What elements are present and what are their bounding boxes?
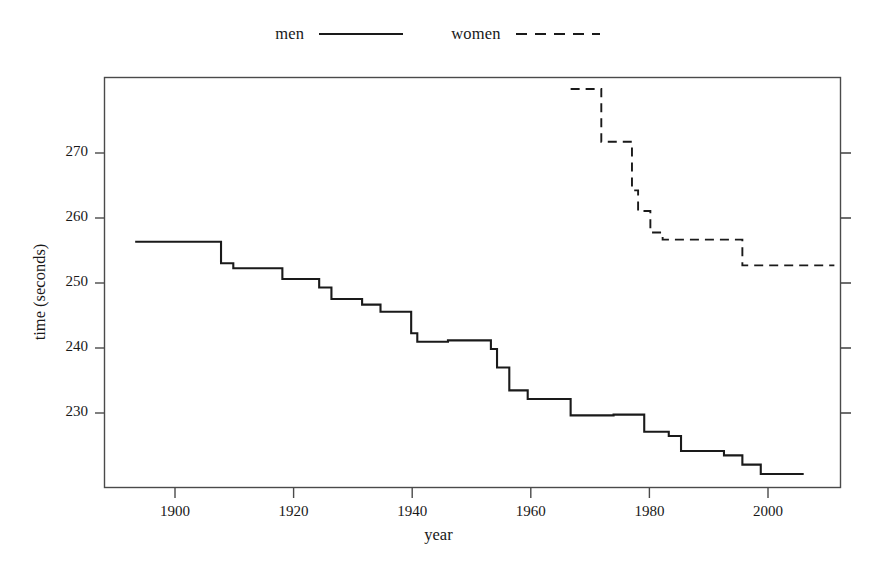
plot-frame xyxy=(105,78,841,488)
x-axis-title: year xyxy=(0,525,877,545)
chart-figure: men women xyxy=(0,0,877,584)
x-tick-label-1940: 1940 xyxy=(377,503,447,520)
y-axis-ticks-right xyxy=(841,153,852,413)
data-series-group xyxy=(135,89,834,474)
series-line-men xyxy=(135,242,804,474)
y-axis-title: time (seconds) xyxy=(30,192,50,392)
y-tick-label-270: 270 xyxy=(42,143,88,160)
x-tick-label-1980: 1980 xyxy=(614,503,684,520)
x-tick-label-1920: 1920 xyxy=(259,503,329,520)
series-line-women xyxy=(571,89,835,265)
y-tick-label-230: 230 xyxy=(42,403,88,420)
x-tick-label-2000: 2000 xyxy=(733,503,803,520)
x-tick-label-1900: 1900 xyxy=(140,503,210,520)
x-axis-ticks-bottom xyxy=(175,488,768,499)
plot-area xyxy=(0,0,877,584)
y-axis-ticks-left xyxy=(95,153,105,413)
x-tick-label-1960: 1960 xyxy=(496,503,566,520)
